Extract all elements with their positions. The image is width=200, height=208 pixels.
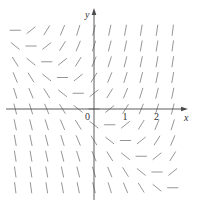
slope-segment bbox=[125, 25, 127, 35]
slope-segment bbox=[62, 183, 64, 193]
slope-segment bbox=[108, 167, 112, 177]
slope-segment bbox=[172, 88, 174, 98]
slope-segment bbox=[45, 120, 48, 130]
slope-segment bbox=[171, 136, 175, 146]
slope-segment bbox=[75, 57, 81, 66]
slope-segment bbox=[156, 41, 158, 51]
slope-segment bbox=[124, 183, 128, 193]
slope-segment bbox=[58, 90, 66, 97]
slope-segment bbox=[172, 72, 174, 82]
y-axis-label: y bbox=[84, 9, 90, 20]
slope-segment bbox=[77, 25, 80, 35]
slope-segment bbox=[172, 57, 174, 67]
slope-segment bbox=[30, 151, 32, 161]
slope-segment bbox=[123, 168, 129, 177]
slope-segment bbox=[27, 27, 35, 34]
slope-segment bbox=[30, 167, 32, 177]
slope-segment bbox=[156, 57, 158, 67]
slope-segment bbox=[140, 57, 142, 67]
slope-segment bbox=[76, 136, 80, 146]
slope-segment bbox=[137, 169, 145, 176]
slope-segment bbox=[124, 73, 127, 83]
slope-segment bbox=[44, 26, 50, 35]
slope-segment bbox=[15, 167, 16, 177]
slope-segment bbox=[77, 151, 80, 161]
slope-segment bbox=[108, 41, 111, 51]
slope-segment bbox=[11, 43, 19, 50]
x-axis-arrow-icon bbox=[181, 107, 188, 112]
slope-segment bbox=[153, 185, 161, 192]
slope-segment bbox=[30, 135, 32, 145]
slope-segment bbox=[172, 25, 173, 35]
slope-segment bbox=[107, 89, 113, 98]
slope-segment bbox=[108, 57, 111, 67]
slope-segment bbox=[140, 88, 143, 98]
slope-segment bbox=[27, 59, 35, 66]
slope-segment bbox=[124, 57, 127, 67]
slope-segment bbox=[74, 74, 82, 81]
slope-segment bbox=[106, 137, 114, 144]
slope-segment bbox=[14, 120, 16, 130]
slope-segment bbox=[75, 120, 81, 129]
slope-segment bbox=[61, 120, 65, 130]
slope-segment bbox=[137, 137, 145, 144]
x-tick-labels: 12 bbox=[123, 111, 160, 122]
x-axis-label: x bbox=[183, 112, 189, 123]
slope-segment bbox=[14, 151, 16, 161]
slope-segment bbox=[61, 167, 63, 177]
slope-segment bbox=[44, 89, 50, 98]
slope-segment bbox=[46, 183, 48, 193]
slope-segment bbox=[156, 88, 159, 98]
slope-segment bbox=[124, 41, 126, 51]
x-tick-label: 1 bbox=[123, 111, 128, 122]
slope-segment bbox=[14, 88, 17, 98]
slope-segment bbox=[140, 25, 142, 35]
slope-segment bbox=[108, 183, 111, 193]
slope-segment bbox=[60, 42, 66, 51]
slope-segment bbox=[28, 73, 34, 82]
slope-segment bbox=[45, 135, 48, 145]
slope-segment bbox=[61, 151, 64, 161]
slope-segment bbox=[30, 183, 31, 193]
slope-segment bbox=[140, 41, 142, 51]
slope-segment bbox=[138, 120, 144, 129]
slope-segment bbox=[61, 25, 65, 35]
slope-segment bbox=[154, 136, 160, 145]
slope-segment bbox=[138, 183, 144, 192]
direction-field-diagram: x y 0 12 bbox=[0, 0, 200, 208]
slope-segment bbox=[13, 73, 17, 83]
slope-segment bbox=[46, 167, 48, 177]
slope-segment bbox=[124, 88, 128, 98]
slope-segment bbox=[43, 43, 51, 50]
slope-segment bbox=[30, 120, 33, 130]
slope-segment bbox=[140, 72, 143, 82]
y-axis-arrow-icon bbox=[92, 8, 97, 15]
slope-segment bbox=[107, 152, 113, 161]
slope-segment bbox=[61, 136, 64, 146]
slope-segment bbox=[121, 153, 129, 160]
slope-segment bbox=[153, 153, 161, 160]
slope-segment bbox=[12, 57, 18, 66]
slope-segment bbox=[170, 152, 176, 161]
slope-segment bbox=[172, 41, 173, 51]
slope-segment bbox=[109, 25, 111, 35]
slope-segment bbox=[77, 183, 79, 193]
slope-segment bbox=[14, 135, 16, 145]
slope-segment bbox=[156, 25, 157, 35]
slope-segment bbox=[171, 120, 174, 130]
slope-segment bbox=[58, 59, 66, 66]
slope-segment bbox=[169, 169, 177, 176]
x-tick-label: 2 bbox=[154, 111, 159, 122]
slope-segment bbox=[156, 72, 158, 82]
slope-segment bbox=[29, 88, 33, 98]
slope-segment bbox=[121, 122, 129, 129]
slope-segment bbox=[76, 41, 80, 51]
origin-label: 0 bbox=[85, 111, 90, 122]
slope-segment bbox=[46, 151, 48, 161]
slope-segment bbox=[43, 74, 51, 81]
slope-segment bbox=[77, 167, 80, 177]
slope-segment bbox=[108, 73, 112, 83]
slope-segment bbox=[15, 183, 16, 193]
